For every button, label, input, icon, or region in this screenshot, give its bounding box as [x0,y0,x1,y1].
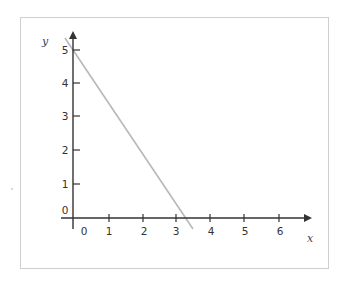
x-tick-label-0: 0 [81,225,88,237]
x-tick-label-4: 4 [208,225,215,237]
y-tick-label-1: 1 [62,178,69,190]
y-tick-label-2: 2 [62,144,69,156]
x-tick-label-6: 6 [277,225,284,237]
y-tick-label-3: 3 [62,110,69,122]
x-tick-label-2: 2 [141,225,148,237]
y-tick-label-0: 0 [62,204,69,216]
y-axis-label: y [41,35,49,48]
chart-svg: 0 1 2 3 4 5 6 0 1 2 3 4 5 x y [0,0,346,282]
y-tick-label-5: 5 [62,44,69,56]
x-tick-label-1: 1 [106,225,113,237]
y-tick-label-4: 4 [62,77,69,89]
y-ticks [73,50,80,184]
data-line [65,38,193,229]
x-tick-label-5: 5 [242,225,249,237]
x-tick-label-3: 3 [173,225,180,237]
x-axis-label: x [307,232,314,245]
